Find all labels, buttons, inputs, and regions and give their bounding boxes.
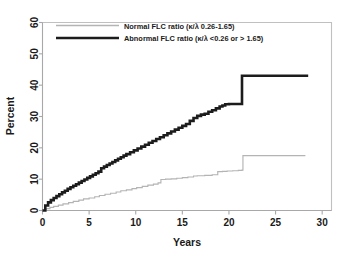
chart-canvas: 0102030405060 051015202530 Percent Years…: [0, 0, 353, 254]
x-tick-label: 15: [177, 217, 189, 228]
x-tick-label: 5: [86, 217, 92, 228]
y-tick-label: 50: [29, 48, 40, 60]
x-axis-ticks: 051015202530: [40, 211, 328, 228]
x-tick-label: 25: [270, 217, 282, 228]
legend-entry-abnormal: Abnormal FLC ratio (κ/λ <0.26 or > 1.65): [56, 34, 264, 43]
y-tick-label: 10: [29, 173, 40, 185]
series-group: [43, 76, 309, 211]
legend-label-abnormal: Abnormal FLC ratio (κ/λ <0.26 or > 1.65): [124, 34, 264, 43]
chart-legend: Normal FLC ratio (κ/λ 0.26-1.65) Abnorma…: [56, 22, 264, 44]
y-tick-label: 40: [29, 79, 40, 91]
x-tick-label: 10: [130, 217, 142, 228]
x-axis-title: Years: [173, 236, 201, 248]
x-tick-label: 20: [223, 217, 235, 228]
kaplan-meier-figure: 0102030405060 051015202530 Percent Years…: [0, 0, 353, 254]
y-tick-label: 60: [29, 17, 40, 29]
x-tick-label: 30: [317, 217, 329, 228]
legend-label-normal: Normal FLC ratio (κ/λ 0.26-1.65): [124, 22, 235, 31]
y-axis-ticks: 0102030405060: [29, 17, 42, 214]
y-tick-label: 20: [29, 142, 40, 154]
series-line-abnormal-flc-ratio: [43, 76, 309, 211]
y-tick-label: 30: [29, 111, 40, 123]
y-axis-title: Percent: [4, 96, 16, 135]
y-tick-label: 0: [29, 207, 40, 213]
plot-frame: [43, 22, 333, 211]
x-tick-label: 0: [40, 217, 46, 228]
